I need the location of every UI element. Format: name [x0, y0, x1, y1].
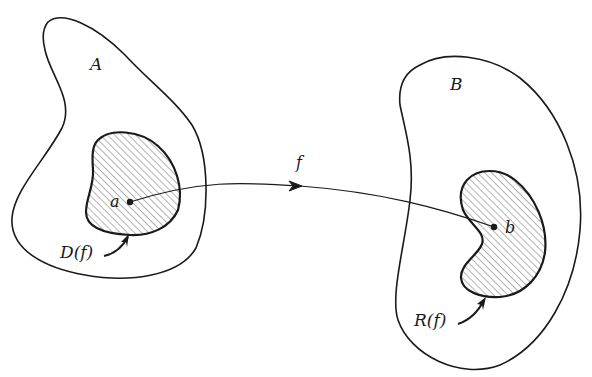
- point-b-dot: [491, 224, 497, 230]
- range-region-label: R(f): [414, 312, 446, 329]
- domain-region-label: D(f): [60, 244, 93, 261]
- point-a-label: a: [110, 194, 120, 210]
- domain-region: [86, 132, 180, 235]
- point-b-label: b: [505, 220, 515, 236]
- mapping-curve: [130, 183, 494, 227]
- mapping-label: f: [296, 155, 302, 171]
- point-a-dot: [127, 199, 133, 205]
- mapping-diagram: [0, 0, 592, 377]
- set-b-label: B: [450, 76, 463, 93]
- range-region: [461, 171, 546, 297]
- set-a-label: A: [90, 56, 102, 73]
